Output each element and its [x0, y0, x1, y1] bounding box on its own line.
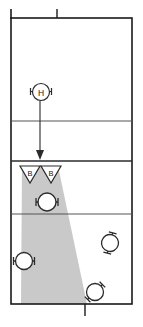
flag-marker-b-left-label: B: [27, 169, 32, 178]
player-marker-right[interactable]: [99, 231, 121, 256]
player-marker-h-label: H: [38, 88, 44, 98]
movement-arrow: [36, 101, 44, 160]
flag-marker-b-right-label: B: [48, 169, 53, 178]
field-diagram-canvas: H B B: [0, 0, 143, 327]
player-marker-h[interactable]: H: [31, 84, 52, 101]
field-diagram: H B B: [0, 0, 143, 327]
shaded-beam: [21, 166, 87, 304]
